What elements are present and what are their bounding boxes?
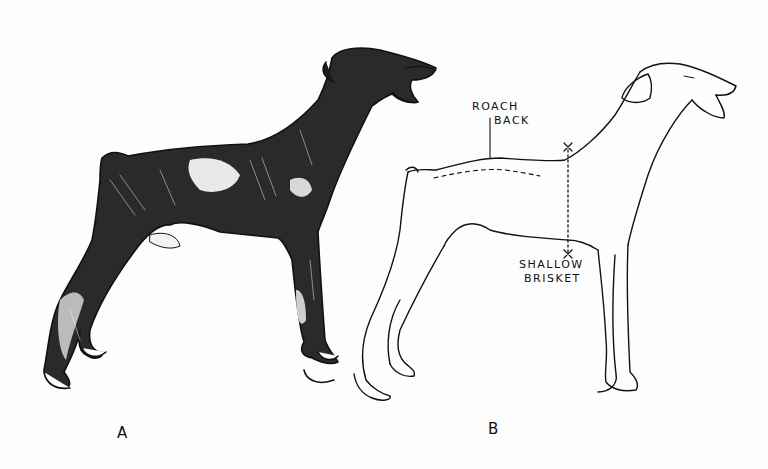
dog-b-figure [354,63,736,400]
annotation-shallow-brisket: SHALLOW BRISKET [519,258,584,286]
annotation-brisket-line2: BRISKET [524,272,584,286]
dog-comparison-drawing [0,0,768,469]
annotation-roach-line1: ROACH [472,100,530,114]
annotation-roach-line2: BACK [494,114,530,128]
illustration-canvas: ROACH BACK SHALLOW BRISKET A B [0,0,768,469]
annotation-roach-back: ROACH BACK [472,100,530,128]
annotation-brisket-line1: SHALLOW [519,258,584,272]
panel-label-b: B [488,420,498,438]
dog-a-figure [44,48,436,388]
roach-back-dashed-line [434,169,540,178]
panel-label-a: A [117,424,127,442]
